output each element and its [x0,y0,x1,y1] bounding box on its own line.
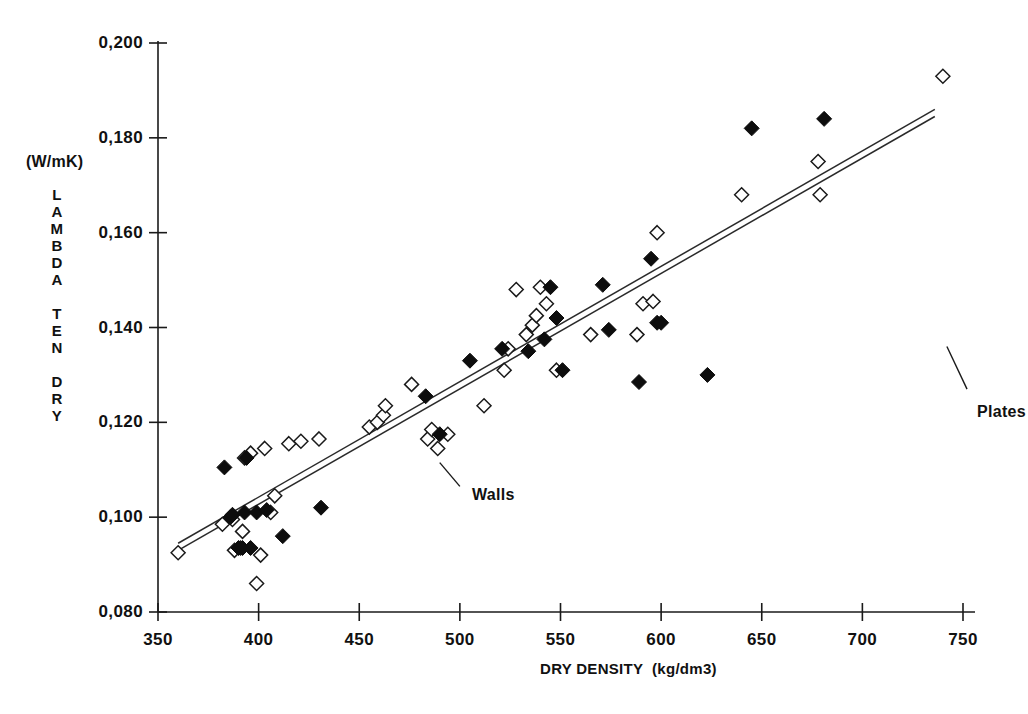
y-axis-title-char: R [46,390,68,407]
leader-plates [947,346,967,389]
upper-fit [178,109,935,543]
data-point-walls [650,226,664,240]
data-point-plates [744,121,759,136]
data-point-plates [817,111,832,126]
plot-canvas [0,0,1028,714]
data-point-walls [477,399,491,413]
scatter-chart: (W/mK) LAMBDA TEN DRY DRY DENSITY (kg/dm… [0,0,1028,714]
data-point-walls [282,437,296,451]
y-tick-label: 0,160 [47,223,143,243]
data-point-plates [217,460,232,475]
x-tick-label: 550 [531,630,591,650]
data-point-walls [497,363,511,377]
data-point-plates [595,277,610,292]
data-point-walls [236,524,250,538]
axes [158,41,975,612]
x-tick-label: 350 [128,630,188,650]
annotation-label-walls: Walls [472,486,515,504]
x-tick-label: 600 [631,630,691,650]
x-tick-label: 750 [933,630,993,650]
data-point-walls [405,377,419,391]
data-point-plates [644,251,659,266]
x-tick-label: 650 [732,630,792,650]
y-axis-title-char: D [46,373,68,390]
y-axis-title-char: A [46,203,68,220]
data-point-walls [312,432,326,446]
leader-walls [440,463,460,487]
data-point-walls [735,188,749,202]
y-axis-title-char: A [46,271,68,288]
data-point-plates [418,389,433,404]
y-tick-label: 0,100 [47,507,143,527]
data-point-walls [509,283,523,297]
x-tick-label: 700 [832,630,892,650]
y-axis-title-gap [46,356,68,373]
x-tick-label: 500 [430,630,490,650]
y-tick-label: 0,180 [47,128,143,148]
axis-ticks [149,43,963,621]
data-point-walls [258,441,272,455]
data-point-plates [631,375,646,390]
data-point-plates [537,332,552,347]
data-point-plates [275,529,290,544]
regression-lines [178,109,935,550]
y-axis-title-char: D [46,254,68,271]
y-tick-label: 0,080 [47,602,143,622]
data-point-plates [462,353,477,368]
data-point-plates [700,367,715,382]
data-point-walls [813,188,827,202]
y-axis-unit-label: (W/mK) [26,153,83,171]
y-tick-label: 0,120 [47,412,143,432]
y-tick-label: 0,140 [47,318,143,338]
y-axis-title-char: N [46,339,68,356]
series-walls [171,69,950,590]
data-point-plates [314,500,329,515]
data-point-walls [811,155,825,169]
x-axis-title: DRY DENSITY (kg/dm3) [540,660,717,677]
data-point-walls [584,328,598,342]
lower-fit [178,116,935,550]
data-point-plates [543,280,558,295]
data-point-plates [601,322,616,337]
data-point-walls [431,441,445,455]
data-point-walls [630,328,644,342]
x-tick-label: 450 [329,630,389,650]
data-point-walls [250,577,264,591]
y-axis-title-gap [46,288,68,305]
data-point-walls [539,297,553,311]
data-point-walls [936,69,950,83]
annotation-label-plates: Plates [977,403,1026,421]
x-tick-label: 400 [229,630,289,650]
annotation-leaders [440,346,967,486]
data-point-walls [294,434,308,448]
y-axis-title-char: L [46,186,68,203]
y-tick-label: 0,200 [47,33,143,53]
